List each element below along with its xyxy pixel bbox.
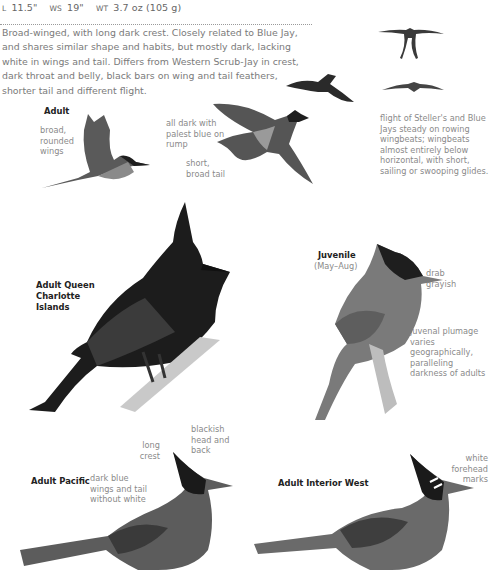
measurements: L 11.5" WS 19" WT 3.7 oz (105 g) — [2, 2, 190, 13]
species-description: Broad-winged, with long dark crest. Clos… — [2, 26, 307, 98]
queen-charlotte-jay-illustration — [25, 202, 225, 417]
weight: WT 3.7 oz (105 g) — [96, 2, 181, 13]
juvenile-jay-illustration — [295, 234, 445, 424]
divider — [0, 24, 312, 25]
interior-west-jay-illustration — [252, 452, 478, 570]
flying-jay-side-illustration — [38, 110, 158, 195]
wingspan: WS 19" — [50, 2, 84, 13]
flying-jay-small-illustration — [284, 70, 359, 106]
flight-note: flight of Steller's and Blue Jays steady… — [380, 113, 490, 176]
flying-jay-spread-illustration — [205, 92, 325, 192]
flight-silhouette-wings-up — [376, 26, 446, 61]
pacific-jay-illustration — [18, 450, 240, 570]
length: L 11.5" — [2, 2, 37, 13]
flight-silhouette-wings-down — [380, 80, 446, 96]
